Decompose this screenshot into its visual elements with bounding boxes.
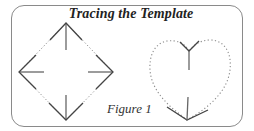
heart-dotted-outline [150,40,230,120]
diamond-template [19,23,113,120]
heart-template [150,40,230,120]
arrow-down-icon [49,95,83,120]
arrow-left-icon [19,55,44,89]
arrow-right-icon [88,55,113,89]
arrow-up-icon [50,23,82,50]
figure-caption: Figure 1 [107,101,152,117]
heart-top-marker-icon [180,41,199,70]
